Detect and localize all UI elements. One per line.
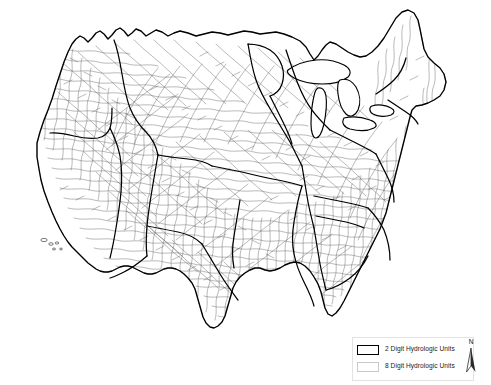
hydrologic-units-map: 2 Digit Hydrologic Units 8 Digit Hydrolo… [0, 0, 491, 385]
legend-swatch-huc8 [357, 362, 379, 372]
map-canvas[interactable] [0, 0, 491, 385]
legend-item-huc8: 8 Digit Hydrologic Units [357, 359, 470, 374]
legend-swatch-huc2 [357, 345, 379, 355]
north-arrow-label: N [461, 339, 481, 346]
channel-islands [41, 238, 63, 250]
legend-label-huc2: 2 Digit Hydrologic Units [385, 346, 455, 353]
north-arrow-icon [464, 347, 478, 373]
map-legend: 2 Digit Hydrologic Units 8 Digit Hydrolo… [352, 337, 474, 381]
legend-item-huc2: 2 Digit Hydrologic Units [357, 342, 470, 357]
land-base [37, 10, 446, 328]
north-arrow: N [461, 339, 481, 379]
legend-label-huc8: 8 Digit Hydrologic Units [385, 363, 455, 370]
